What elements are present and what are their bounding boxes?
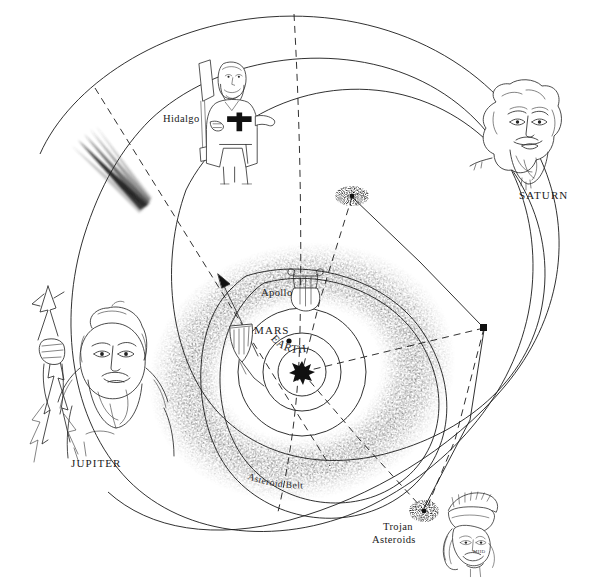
asteroid-marker-right-icon — [480, 324, 487, 331]
hidalgo-figure — [199, 60, 275, 184]
trojan-cluster-icon — [409, 500, 439, 522]
label-mars: MARS — [254, 324, 290, 336]
label-jupiter: JUPITER — [71, 457, 121, 469]
diagram-canvas: Hidalgo SATURN JUPITER Apollo MARS EARTH… — [0, 0, 594, 583]
label-hidalgo: Hidalgo — [163, 113, 200, 124]
comet-icon — [72, 126, 152, 213]
asteroid-cluster-upper-icon — [335, 186, 369, 206]
jupiter-figure — [30, 286, 174, 462]
trojan-figure — [443, 492, 497, 577]
label-trojan-line2: Asteroids — [372, 534, 416, 545]
artist-signature: MHD — [473, 549, 485, 554]
label-trojan-line1: Trojan — [383, 521, 413, 532]
label-apollo: Apollo — [261, 287, 293, 298]
solar-system-diagram: Hidalgo SATURN JUPITER Apollo MARS EARTH… — [0, 0, 594, 583]
saturn-figure — [470, 80, 561, 190]
label-saturn: SATURN — [519, 189, 568, 201]
